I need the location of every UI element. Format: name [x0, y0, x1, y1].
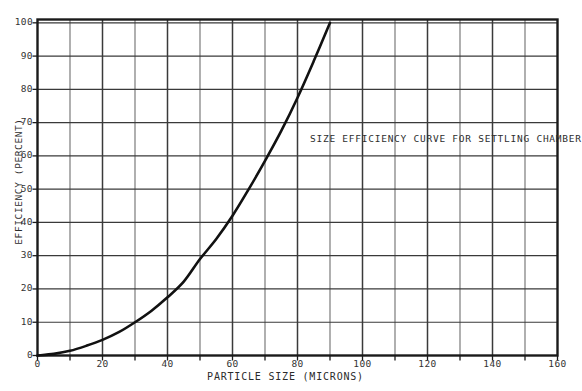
x-axis-tick-label: 120 [408, 358, 448, 369]
x-axis-tick-label: 80 [278, 358, 318, 369]
y-axis-tick-label: 20 [3, 283, 33, 293]
x-axis-tick-label: 60 [213, 358, 253, 369]
x-axis-tick-label: 100 [343, 358, 383, 369]
x-axis-tick-label: 0 [18, 358, 58, 369]
y-axis-tick-label: 100 [3, 17, 33, 27]
y-axis-tick-label: 90 [3, 51, 33, 61]
y-axis-tick-label: 30 [3, 250, 33, 260]
x-axis-tick-label: 40 [148, 358, 188, 369]
x-axis-tick-label: 140 [473, 358, 513, 369]
y-axis-tick-label: 80 [3, 84, 33, 94]
x-axis-tick-label: 160 [538, 358, 578, 369]
x-axis-title: PARTICLE SIZE (MICRONS) [0, 371, 571, 382]
x-axis-tick-label: 20 [83, 358, 123, 369]
y-axis-tick-label: 10 [3, 317, 33, 327]
y-axis-title: EFFICIENCY (PERCENT) [13, 112, 24, 252]
chart-annotation-label: SIZE EFFICIENCY CURVE FOR SETTLING CHAMB… [310, 133, 582, 144]
